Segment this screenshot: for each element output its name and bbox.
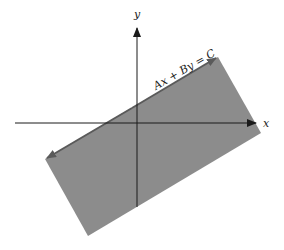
- x-axis-label: x: [263, 117, 270, 130]
- y-axis-label: y: [133, 8, 141, 21]
- half-plane-diagram: x y Ax + By = C: [0, 0, 284, 250]
